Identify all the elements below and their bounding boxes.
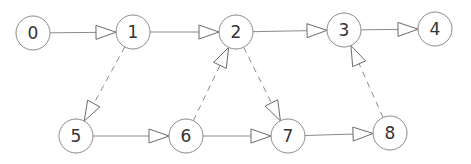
edge-3-to-4 bbox=[361, 22, 418, 36]
dashed-edge-line bbox=[193, 65, 220, 120]
arrowhead-icon bbox=[265, 100, 280, 121]
dashed-edge-line bbox=[244, 47, 272, 103]
graph-diagram: 012345678 bbox=[0, 0, 471, 164]
arrowhead-icon bbox=[251, 129, 271, 143]
node-label: 2 bbox=[231, 22, 242, 42]
node-0: 0 bbox=[16, 16, 50, 50]
arrowhead-icon bbox=[96, 25, 116, 39]
dashed-edge-line bbox=[94, 47, 125, 104]
solid-edge-line bbox=[253, 31, 307, 32]
edge-1-to-5 bbox=[84, 47, 125, 121]
edge-8-to-3 bbox=[351, 46, 383, 118]
arrowhead-icon bbox=[353, 127, 373, 141]
solid-edge-line bbox=[305, 134, 353, 135]
node-4: 4 bbox=[418, 12, 452, 46]
node-label: 0 bbox=[28, 23, 39, 43]
node-label: 4 bbox=[430, 19, 441, 39]
arrowhead-icon bbox=[214, 47, 229, 68]
edge-2-to-7 bbox=[244, 47, 281, 121]
arrowhead-icon bbox=[351, 46, 366, 67]
node-label: 3 bbox=[339, 20, 350, 40]
node-3: 3 bbox=[327, 13, 361, 47]
node-label: 7 bbox=[283, 126, 294, 146]
arrowhead-icon bbox=[398, 22, 418, 36]
node-label: 8 bbox=[385, 123, 396, 143]
node-label: 5 bbox=[71, 126, 82, 146]
node-label: 6 bbox=[181, 126, 192, 146]
node-6: 6 bbox=[169, 119, 203, 153]
edge-5-to-6 bbox=[93, 129, 169, 143]
node-2: 2 bbox=[219, 15, 253, 49]
node-7: 7 bbox=[271, 119, 305, 153]
edge-7-to-8 bbox=[305, 127, 373, 141]
node-8: 8 bbox=[373, 116, 407, 150]
edge-6-to-2 bbox=[193, 47, 228, 120]
arrowhead-icon bbox=[149, 129, 169, 143]
edge-2-to-3 bbox=[253, 24, 327, 38]
arrowhead-icon bbox=[84, 100, 100, 121]
edge-6-to-7 bbox=[203, 129, 271, 143]
edge-0-to-1 bbox=[50, 25, 116, 39]
edge-1-to-2 bbox=[150, 25, 219, 39]
arrowhead-icon bbox=[307, 24, 327, 38]
arrowhead-icon bbox=[199, 25, 219, 39]
nodes-layer: 012345678 bbox=[16, 12, 452, 153]
graph-canvas: 012345678 bbox=[0, 0, 471, 164]
node-5: 5 bbox=[59, 119, 93, 153]
node-1: 1 bbox=[116, 15, 150, 49]
node-label: 1 bbox=[128, 22, 139, 42]
dashed-edge-line bbox=[359, 64, 383, 118]
